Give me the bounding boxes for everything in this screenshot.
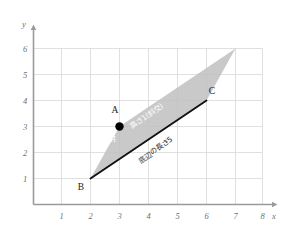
foot-h-label: H	[110, 135, 116, 144]
y-axis-arrow	[31, 25, 37, 31]
x-tick-label-7: 7	[233, 211, 238, 221]
point-c-label: C	[209, 86, 215, 96]
y-tick-label-4: 4	[23, 96, 28, 106]
x-tick-label-6: 6	[204, 211, 209, 221]
point-a-label: A	[112, 105, 119, 115]
point-b-label: B	[78, 182, 84, 192]
y-tick-label-5: 5	[23, 70, 27, 80]
x-tick-label-8: 8	[260, 211, 265, 221]
coordinate-plane-svg: 1 2 3 4 5 6 1 2 3 4 5 6 7 8 x y A B C H …	[0, 0, 283, 235]
y-tick-label-1: 1	[23, 174, 27, 184]
y-tick-label-6: 6	[23, 44, 28, 54]
x-tick-label-1: 1	[59, 211, 63, 221]
x-tick-label-4: 4	[146, 211, 151, 221]
x-axis-arrow	[272, 202, 278, 208]
x-tick-label-3: 3	[116, 211, 121, 221]
y-axis-name: y	[21, 19, 26, 29]
x-tick-label-5: 5	[175, 211, 179, 221]
x-tick-label-2: 2	[88, 211, 93, 221]
point-a-dot	[115, 122, 123, 130]
geometry-figure: 1 2 3 4 5 6 1 2 3 4 5 6 7 8 x y A B C H …	[0, 0, 283, 235]
y-tick-label-2: 2	[23, 148, 28, 158]
x-axis-name: x	[271, 211, 276, 221]
y-tick-label-3: 3	[22, 122, 27, 132]
